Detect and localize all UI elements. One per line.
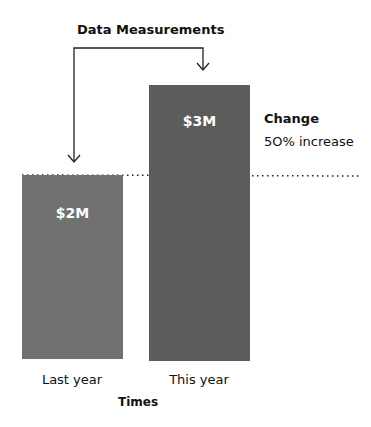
change-text: 5O% increase	[264, 134, 354, 149]
x-axis-label: Times	[118, 395, 158, 409]
bar-value: $3M	[149, 113, 250, 129]
category-label: This year	[144, 372, 254, 387]
category-label: Last year	[17, 372, 127, 387]
bar-value: $2M	[22, 205, 123, 221]
change-title: Change	[264, 111, 319, 126]
bar-this-year: $3M	[149, 85, 250, 361]
bar-last-year: $2M	[22, 175, 123, 359]
